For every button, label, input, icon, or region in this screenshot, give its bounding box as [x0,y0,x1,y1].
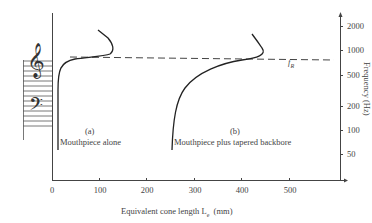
x-tick-0: 0 [50,186,54,195]
y-tick-50: 50 [347,150,356,159]
y-tick-1000: 1000 [347,46,364,55]
x-tick-100: 100 [94,186,107,195]
y-axis-arrow [339,12,343,17]
y-tick-2000: 2000 [347,22,364,31]
x-axis-arrow [344,179,348,183]
resonance-label: fR [288,58,294,69]
x-tick-300: 300 [189,186,202,195]
resonance-frequency-line [70,57,334,60]
x-tick-200: 200 [141,186,154,195]
curve-b-caption: Mouthpiece plus tapered backbore [174,138,291,147]
y-tick-100: 100 [347,126,360,135]
bass-clef-icon: 𝄢 [29,96,43,118]
y-tick-500: 500 [347,71,360,80]
x-tick-500: 500 [284,186,297,195]
curve-b-tag: (b) [230,127,240,136]
x-tick-400: 400 [236,186,249,195]
curve-a-tag: (a) [85,127,94,136]
treble-clef-icon: 𝄞 [27,45,45,75]
curve-b-mouthpiece-plus-backbore [172,34,263,150]
y-tick-200: 200 [347,102,360,111]
curve-a-caption: Mouthpiece alone [60,138,121,147]
y-axis-label: Frequency (Hz) [362,62,372,116]
x-axis-label: Equivalent cone length Le (mm) [121,207,233,218]
